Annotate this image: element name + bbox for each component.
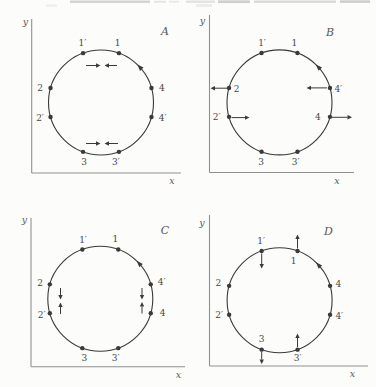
- panel-B-arrow-1-head-icon: [245, 115, 250, 119]
- loop-circle: [227, 248, 332, 353]
- point-label: 3: [81, 157, 87, 167]
- panel-D-arrow-0-head-icon: [295, 235, 299, 240]
- point-label: 3′: [292, 157, 300, 167]
- point-dot: [81, 51, 85, 55]
- panel-letter: C: [161, 224, 170, 237]
- point-dot: [328, 313, 332, 317]
- point-label: 3′: [112, 353, 120, 363]
- point-dot: [80, 247, 84, 251]
- point-label: 2′: [36, 113, 44, 123]
- panel-A-arrow-2-head-icon: [96, 141, 101, 145]
- point-label: 3: [81, 353, 87, 363]
- panel-C: yx11′22′33′4′4C: [21, 214, 185, 380]
- panel-A: yx11′22′33′44′A: [22, 16, 181, 187]
- point-dot: [117, 150, 121, 154]
- panel-C-arrow-0-head-icon: [58, 295, 62, 300]
- point-label: 2′: [215, 310, 223, 320]
- point-dot: [227, 313, 231, 317]
- panel-B: yx11′22′33′4′4B: [199, 15, 354, 186]
- page-crop-artifact: [340, 0, 370, 3]
- point-label: 4: [315, 112, 321, 122]
- point-dot: [48, 86, 52, 90]
- panel-D-arrow-1-head-icon: [260, 264, 264, 269]
- point-label: 4′: [159, 113, 167, 123]
- point-label: 2′: [38, 310, 46, 320]
- panel-A-arrow-1-head-icon: [105, 63, 110, 67]
- panel-B-arrow-3-head-icon: [348, 115, 353, 119]
- point-label: 1′: [78, 38, 86, 48]
- point-label: 1: [112, 234, 118, 244]
- point-label: 3′: [112, 157, 120, 167]
- point-label: 2: [37, 83, 43, 93]
- point-dot: [149, 282, 153, 286]
- point-dot: [295, 249, 299, 253]
- page-crop-artifact: [196, 4, 212, 7]
- point-label: 2: [37, 278, 43, 288]
- point-label: 1: [291, 38, 297, 48]
- point-label: 2′: [213, 112, 221, 122]
- point-label: 4′: [334, 84, 342, 94]
- point-dot: [259, 150, 263, 154]
- point-dot: [328, 284, 332, 288]
- textbook-figure-page: yx11′22′33′44′Ayx11′22′33′4′4Byx11′22′33…: [0, 0, 376, 387]
- point-dot: [328, 115, 332, 119]
- y-axis-label: y: [198, 217, 205, 228]
- page-crop-artifact: [154, 1, 166, 3]
- point-dot: [116, 247, 120, 251]
- point-label: 4: [159, 83, 165, 93]
- point-label: 4′: [158, 277, 166, 287]
- four-panel-circle-diagram: yx11′22′33′44′Ayx11′22′33′4′4Byx11′22′33…: [0, 0, 376, 387]
- y-axis-label: y: [22, 16, 29, 27]
- point-dot: [149, 115, 153, 119]
- panel-letter: A: [160, 25, 169, 38]
- point-label: 1: [115, 38, 121, 48]
- point-dot: [48, 282, 52, 286]
- x-axis-label: x: [169, 175, 175, 186]
- point-dot: [80, 346, 84, 350]
- y-axis-label: y: [199, 15, 206, 26]
- point-dot: [259, 347, 263, 351]
- x-axis-label: x: [350, 368, 356, 379]
- point-label: 4: [335, 279, 341, 289]
- point-label: 2: [234, 84, 240, 94]
- panel-letter: B: [325, 26, 334, 39]
- point-dot: [117, 51, 121, 55]
- point-dot: [259, 249, 263, 253]
- panel-C-arrow-2-head-icon: [140, 295, 144, 300]
- point-dot: [149, 86, 153, 90]
- point-dot: [227, 86, 231, 90]
- point-label: 1′: [258, 38, 266, 48]
- point-label: 3: [258, 157, 264, 167]
- panel-A-arrow-3-head-icon: [105, 141, 110, 145]
- loop-circle: [48, 246, 153, 351]
- panel-A-arrow-0-head-icon: [96, 63, 101, 67]
- loop-circle: [227, 50, 332, 155]
- point-label: 1: [291, 256, 297, 266]
- point-label: 3′: [294, 353, 302, 363]
- panel-letter: D: [323, 225, 333, 238]
- loop-circle: [49, 50, 154, 155]
- page-crop-artifact: [218, 0, 250, 3]
- panel-B-arrow-0-head-icon: [211, 86, 216, 90]
- point-dot: [295, 347, 299, 351]
- point-label: 2: [215, 278, 221, 288]
- page-crop-artifact: [169, 1, 179, 3]
- point-dot: [149, 311, 153, 315]
- point-dot: [295, 150, 299, 154]
- point-label: 4: [160, 308, 166, 318]
- point-label: 4′: [335, 311, 343, 321]
- y-axis-label: y: [21, 214, 28, 225]
- point-dot: [48, 115, 52, 119]
- page-crop-artifact: [46, 5, 57, 7]
- page-crop-artifact: [186, 1, 215, 3]
- x-axis-label: x: [334, 175, 340, 186]
- panel-C-arrow-3-head-icon: [140, 302, 144, 307]
- panel-D-arrow-2-head-icon: [260, 360, 264, 365]
- x-axis-label: x: [176, 369, 182, 380]
- point-label: 1′: [79, 235, 87, 245]
- panel-D: yx11′22′33′44′D: [198, 215, 368, 379]
- panel-B-arrow-2-head-icon: [307, 86, 312, 90]
- panel-C-arrow-1-head-icon: [58, 303, 62, 308]
- point-dot: [227, 115, 231, 119]
- point-dot: [259, 51, 263, 55]
